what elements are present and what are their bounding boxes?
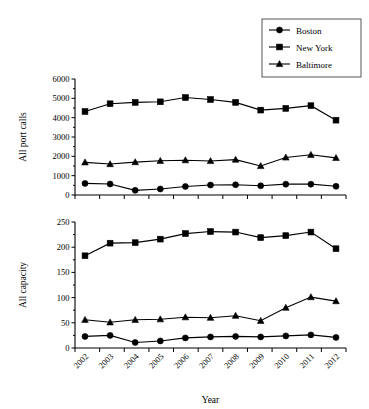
data-point-circle (182, 183, 188, 189)
chart-panel-capacity: 0501001502002502002200320042005200620072… (18, 217, 346, 405)
x-tick-label: 2005 (147, 351, 166, 370)
y-tick-label: 100 (57, 293, 70, 303)
data-point-circle (132, 339, 138, 345)
series-line-new-york (85, 232, 336, 256)
data-point-circle (157, 338, 163, 344)
data-point-circle (233, 333, 239, 339)
x-axis-title: Year (202, 395, 220, 405)
y-tick-label: 3000 (53, 132, 70, 142)
data-point-square (82, 253, 88, 259)
x-tick-label: 2003 (96, 351, 115, 370)
data-point-square (107, 101, 113, 107)
x-tick-label: 2008 (222, 351, 241, 370)
data-point-circle (283, 333, 289, 339)
data-point-triangle (232, 312, 239, 318)
data-point-circle (308, 332, 314, 338)
x-tick-label: 2009 (247, 351, 266, 370)
data-point-square (277, 44, 283, 50)
x-tick-label: 2010 (272, 351, 291, 370)
data-point-triangle (82, 316, 89, 322)
legend: BostonNew YorkBaltimore (262, 19, 361, 77)
data-point-square (183, 231, 189, 237)
data-point-triangle (308, 151, 315, 157)
data-point-square (333, 117, 339, 123)
data-point-circle (277, 27, 283, 33)
y-tick-label: 5000 (53, 93, 70, 103)
data-point-square (283, 233, 289, 239)
data-point-circle (107, 332, 113, 338)
data-point-circle (107, 181, 113, 187)
data-point-square (258, 107, 264, 113)
data-point-square (333, 246, 339, 252)
y-tick-label: 1000 (53, 171, 70, 181)
data-point-square (308, 229, 314, 235)
data-point-circle (258, 334, 264, 340)
data-point-square (283, 105, 289, 111)
data-point-triangle (308, 294, 315, 300)
x-tick-label: 2002 (71, 351, 90, 370)
data-point-square (233, 229, 239, 235)
data-point-square (157, 236, 163, 242)
data-point-square (208, 229, 214, 235)
legend-label: Boston (296, 26, 322, 36)
data-point-circle (208, 182, 214, 188)
data-point-circle (82, 333, 88, 339)
x-tick-label: 2007 (197, 351, 216, 370)
y-tick-label: 150 (57, 267, 70, 277)
y-tick-label: 200 (57, 242, 70, 252)
data-point-square (157, 99, 163, 105)
y-tick-label: 6000 (53, 74, 70, 84)
data-point-square (208, 97, 214, 103)
data-point-circle (157, 186, 163, 192)
data-point-square (258, 235, 264, 241)
y-tick-label: 2000 (53, 151, 70, 161)
y-tick-label: 0 (65, 343, 69, 353)
y-tick-label: 4000 (53, 113, 70, 123)
legend-label: New York (296, 43, 333, 53)
x-tick-label: 2012 (322, 351, 341, 370)
data-point-square (107, 240, 113, 246)
x-tick-label: 2011 (297, 351, 316, 370)
data-point-circle (333, 183, 339, 189)
axis-lines-capacity (75, 222, 346, 348)
x-tick-label: 2004 (122, 351, 142, 371)
chart-svg: 0100020003000400050006000All port calls0… (0, 0, 369, 409)
y-axis-title-capacity: All capacity (18, 262, 28, 308)
y-tick-label: 250 (57, 217, 70, 227)
data-point-square (132, 240, 138, 246)
data-point-circle (333, 334, 339, 340)
data-point-circle (182, 335, 188, 341)
y-axis-title-port-calls: All port calls (18, 112, 28, 162)
data-point-square (308, 103, 314, 109)
data-point-circle (233, 182, 239, 188)
data-point-circle (208, 334, 214, 340)
legend-label: Baltimore (296, 60, 332, 70)
data-point-circle (82, 180, 88, 186)
data-point-square (183, 95, 189, 101)
data-point-square (132, 99, 138, 105)
figure-container: 0100020003000400050006000All port calls0… (0, 0, 369, 409)
data-point-triangle (82, 159, 89, 165)
data-point-square (233, 99, 239, 105)
x-tick-label: 2006 (172, 351, 191, 370)
y-tick-label: 0 (65, 190, 69, 200)
data-point-circle (308, 181, 314, 187)
data-point-square (82, 109, 88, 115)
data-point-circle (283, 181, 289, 187)
y-tick-label: 50 (61, 318, 70, 328)
data-point-circle (132, 187, 138, 193)
data-point-circle (258, 183, 264, 189)
chart-panel-port-calls: 0100020003000400050006000All port calls (18, 74, 346, 200)
